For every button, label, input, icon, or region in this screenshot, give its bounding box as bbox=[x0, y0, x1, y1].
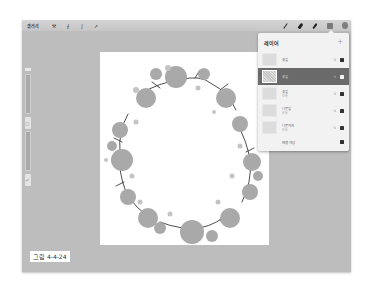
visibility-checkbox[interactable] bbox=[340, 75, 344, 79]
layer-row-active[interactable]: 꽃잎 N bbox=[258, 68, 349, 85]
visibility-checkbox[interactable] bbox=[340, 140, 344, 144]
layer-name: 꽃잎 bbox=[282, 74, 288, 79]
layers-icon[interactable] bbox=[327, 23, 333, 29]
visibility-checkbox[interactable] bbox=[340, 109, 344, 113]
layer-mode: 보통 bbox=[282, 128, 294, 132]
opacity-slider[interactable] bbox=[25, 131, 31, 171]
layer-thumbnail bbox=[262, 121, 277, 134]
color-icon[interactable] bbox=[342, 23, 348, 29]
blend-mode-button[interactable]: N bbox=[333, 92, 336, 96]
visibility-checkbox[interactable] bbox=[340, 126, 344, 130]
layer-thumbnail bbox=[262, 70, 277, 83]
blend-mode-button[interactable]: N bbox=[333, 109, 336, 113]
layer-thumbnail bbox=[262, 87, 277, 100]
toolbar-right-group bbox=[282, 20, 348, 31]
gallery-button[interactable]: 갤러리 bbox=[27, 23, 39, 29]
blend-mode-button[interactable]: N bbox=[333, 75, 336, 79]
layer-row[interactable]: 나뭇잎보통 N bbox=[258, 102, 349, 119]
top-toolbar: 갤러리 ⚒ ∮ ʃ ➚ bbox=[22, 20, 351, 31]
background-color-row[interactable]: 배경 색상 bbox=[258, 136, 349, 148]
layers-header: 레이어 + bbox=[258, 33, 349, 51]
layer-row[interactable]: 꽃잎 N bbox=[258, 51, 349, 68]
brush-size-slider[interactable] bbox=[25, 74, 31, 114]
selection-icon[interactable]: ʃ bbox=[75, 23, 89, 29]
magic-wand-icon[interactable]: ∮ bbox=[61, 23, 75, 29]
visibility-checkbox[interactable] bbox=[340, 58, 344, 62]
left-sidebar: □ ↶ bbox=[24, 68, 31, 198]
blend-mode-button[interactable]: N bbox=[333, 58, 336, 62]
eraser-icon[interactable] bbox=[312, 23, 318, 29]
layer-name: 꽃잎 bbox=[282, 57, 288, 62]
smudge-icon[interactable] bbox=[297, 23, 303, 29]
blend-mode-button[interactable]: N bbox=[333, 126, 336, 130]
transform-icon[interactable]: ➚ bbox=[89, 23, 103, 29]
brush-icon[interactable] bbox=[282, 23, 288, 29]
panel-caret bbox=[328, 30, 334, 33]
toolbar-left-group: 갤러리 ⚒ ∮ ʃ ➚ bbox=[22, 23, 103, 29]
background-color-label: 배경 색상 bbox=[282, 140, 295, 145]
visibility-checkbox[interactable] bbox=[340, 92, 344, 96]
add-layer-button[interactable]: + bbox=[337, 38, 343, 46]
cherry-blossom-wreath bbox=[100, 52, 269, 245]
sidebar-handle[interactable] bbox=[25, 68, 31, 71]
procreate-app-window: 갤러리 ⚒ ∮ ʃ ➚ □ ↶ bbox=[22, 20, 351, 272]
layers-title: 레이어 bbox=[264, 39, 279, 46]
layers-panel: 레이어 + 꽃잎 N 꽃잎 N 꽃잎보통 N 나뭇잎보통 N 나뭇가지보통 N bbox=[258, 33, 349, 151]
undo-button[interactable]: ↶ bbox=[25, 174, 31, 186]
layer-thumbnail bbox=[262, 104, 277, 117]
layer-mode: 보통 bbox=[282, 94, 288, 98]
layer-mode: 보통 bbox=[282, 111, 291, 115]
drawing-canvas[interactable] bbox=[100, 52, 269, 245]
layer-thumbnail bbox=[262, 53, 277, 66]
modify-button[interactable]: □ bbox=[25, 117, 31, 129]
layer-row[interactable]: 나뭇가지보통 N bbox=[258, 119, 349, 136]
figure-caption: 그림 4-4-24 bbox=[30, 251, 70, 262]
layer-row[interactable]: 꽃잎보통 N bbox=[258, 85, 349, 102]
wrench-icon[interactable]: ⚒ bbox=[47, 23, 61, 29]
